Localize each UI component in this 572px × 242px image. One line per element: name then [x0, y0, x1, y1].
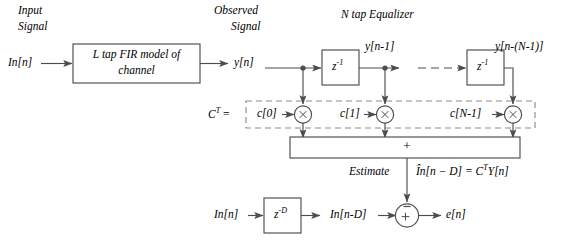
coefficient-label-0: c[0]: [257, 107, 277, 120]
label-input-signal-line2: Signal: [18, 20, 47, 33]
coefficient-label-1: c[1]: [340, 107, 360, 120]
delay-block-1-exponent: -1: [336, 58, 343, 67]
signal-label-delayed-n: y[n-(N-1)]: [495, 40, 544, 53]
delay-block-1-label: z-1: [332, 59, 343, 73]
delay-block-n-exponent: -1: [481, 58, 488, 67]
delay-block-d-exponent: -D: [278, 206, 286, 215]
adder-circle: [395, 204, 418, 227]
fir-channel-label-line2: channel: [78, 64, 195, 77]
label-observed-signal-line1: Observed: [214, 4, 258, 17]
coefficient-vector-equals: =: [223, 108, 230, 120]
signal-label-input-delayed: In[n-D]: [330, 208, 366, 221]
signal-label-input: In[n]: [8, 56, 32, 69]
signal-label-error: e[n]: [446, 208, 466, 221]
diagram-canvas: Input Signal Observed Signal N tap Equal…: [0, 0, 572, 242]
signal-label-observed: y[n]: [234, 56, 254, 69]
label-observed-signal-line2: Signal: [231, 20, 260, 33]
label-input-signal-line1: Input: [18, 4, 42, 17]
label-equalizer-title: N tap Equalizer: [341, 8, 414, 21]
fir-channel-label-line1: L tap FIR model of: [78, 48, 195, 61]
delay-block-n-label: z-1: [477, 59, 488, 73]
label-estimate-expression: În[n − D] = CTY[n]: [416, 164, 509, 178]
summation-plus-label: +: [380, 139, 434, 154]
line-delayn-to-tapn: [504, 68, 513, 104]
multiplier-glyphs: [300, 111, 517, 118]
delay-block-d-label: z-D: [274, 207, 287, 221]
coefficient-vector-transpose: T: [216, 106, 220, 115]
signal-label-delayed-1: y[n-1]: [365, 40, 394, 53]
coefficient-vector-c: C: [208, 108, 216, 120]
coefficient-label-n: c[N-1]: [450, 107, 481, 120]
estimate-expr-hat: În[n − D] =: [416, 165, 476, 177]
signal-label-input-bottom: In[n]: [214, 208, 238, 221]
estimate-expr-y: Y[n]: [488, 165, 509, 177]
label-estimate: Estimate: [349, 165, 389, 178]
coefficient-vector-label: CT =: [208, 107, 230, 121]
